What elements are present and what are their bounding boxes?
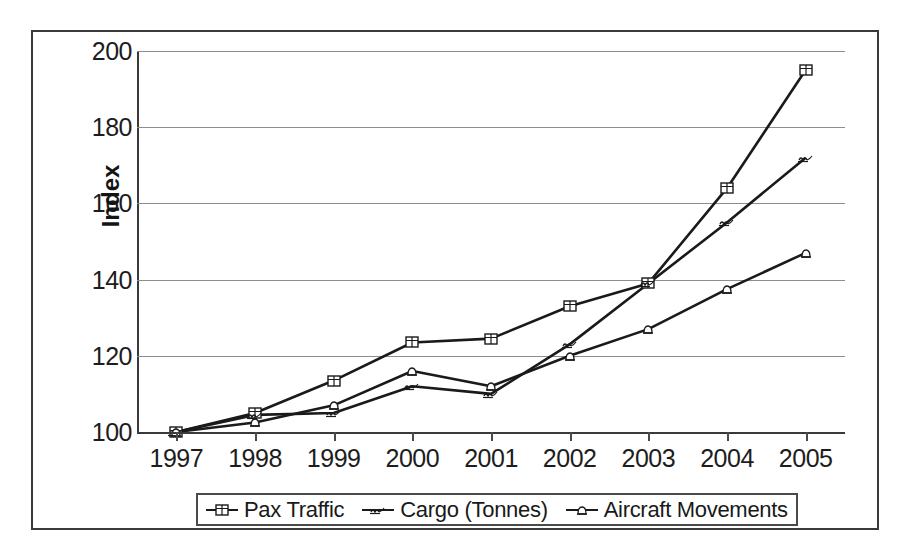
bell-icon <box>481 378 501 394</box>
y-tick-label-120: 120 <box>92 341 132 370</box>
chart-legend: Pax TrafficCargo (Tonnes)Aircraft Moveme… <box>196 493 798 526</box>
x-tick-label-2005: 2005 <box>779 444 833 473</box>
data-point-2-2002 <box>560 348 580 364</box>
data-point-0-1999 <box>324 373 344 389</box>
y-tick-label-100: 100 <box>92 418 132 447</box>
data-point-1-2004 <box>717 214 737 230</box>
x-tick-2003 <box>648 432 650 441</box>
square-book-icon <box>717 180 737 196</box>
legend-entry-0[interactable]: Pax Traffic <box>206 497 344 523</box>
squiggle-icon <box>796 150 816 166</box>
data-point-2-2000 <box>402 363 422 379</box>
x-tick-2000 <box>412 432 414 441</box>
data-point-0-2001 <box>481 331 501 347</box>
x-tick-label-2001: 2001 <box>464 444 518 473</box>
bell-icon <box>717 281 737 297</box>
legend-label-1: Cargo (Tonnes) <box>400 497 547 523</box>
data-point-1-2003 <box>638 275 658 291</box>
data-point-0-2002 <box>560 298 580 314</box>
bell-icon <box>572 502 592 518</box>
data-point-1-2005 <box>796 150 816 166</box>
x-tick-label-2002: 2002 <box>543 444 597 473</box>
data-point-2-2003 <box>638 321 658 337</box>
bell-icon <box>245 414 265 430</box>
x-tick-label-1999: 1999 <box>307 444 361 473</box>
legend-entry-2[interactable]: Aircraft Movements <box>566 497 788 523</box>
square-book-icon <box>402 334 422 350</box>
squiggle-icon <box>402 378 422 394</box>
x-tick-label-2003: 2003 <box>622 444 676 473</box>
bell-icon <box>796 245 816 261</box>
legend-key-2 <box>566 502 598 518</box>
bell-icon <box>324 397 344 413</box>
legend-key-0 <box>206 502 238 518</box>
square-book-icon <box>481 331 501 347</box>
square-book-icon <box>796 62 816 78</box>
y-tick-label-200: 200 <box>92 37 132 66</box>
square-book-icon <box>212 502 232 518</box>
data-point-0-2000 <box>402 334 422 350</box>
squiggle-icon <box>638 275 658 291</box>
bell-icon <box>402 363 422 379</box>
x-tick-2001 <box>491 432 493 441</box>
x-tick-label-1998: 1998 <box>228 444 282 473</box>
series-lines <box>137 51 845 432</box>
x-tick-label-2004: 2004 <box>700 444 754 473</box>
legend-key-1 <box>362 502 394 518</box>
x-tick-1997 <box>176 432 178 441</box>
data-point-2-1999 <box>324 397 344 413</box>
legend-entry-1[interactable]: Cargo (Tonnes) <box>362 497 547 523</box>
legend-label-2: Aircraft Movements <box>604 497 788 523</box>
squiggle-icon <box>368 502 388 518</box>
data-point-1-2000 <box>402 378 422 394</box>
data-point-0-2004 <box>717 180 737 196</box>
x-tick-2004 <box>727 432 729 441</box>
x-tick-1999 <box>334 432 336 441</box>
plot-area <box>137 51 845 432</box>
x-tick-label-1997: 1997 <box>150 444 204 473</box>
square-book-icon <box>560 298 580 314</box>
y-axis-title: Index <box>97 106 125 286</box>
x-tick-2002 <box>570 432 572 441</box>
data-point-2-2004 <box>717 281 737 297</box>
square-book-icon <box>324 373 344 389</box>
legend-label-0: Pax Traffic <box>244 497 344 523</box>
x-tick-2005 <box>806 432 808 441</box>
bell-icon <box>638 321 658 337</box>
x-tick-label-2000: 2000 <box>386 444 440 473</box>
x-tick-1998 <box>255 432 257 441</box>
data-point-2-1998 <box>245 414 265 430</box>
bell-icon <box>560 348 580 364</box>
chart-figure-frame: 100120140160180200 Index Pax TrafficCarg… <box>31 30 879 530</box>
squiggle-icon <box>717 214 737 230</box>
data-point-2-2001 <box>481 378 501 394</box>
data-point-0-2005 <box>796 62 816 78</box>
data-point-2-2005 <box>796 245 816 261</box>
